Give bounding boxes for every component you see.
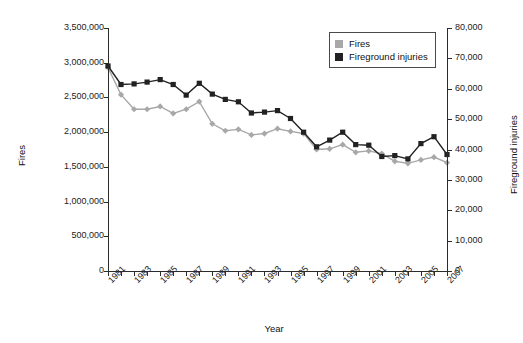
- data-point-marker: [196, 98, 202, 104]
- data-point-marker: [392, 158, 398, 164]
- data-point-marker: [353, 142, 358, 147]
- data-point-marker: [274, 126, 280, 132]
- data-point-marker: [418, 141, 423, 146]
- data-point-marker: [210, 92, 215, 97]
- data-point-marker: [235, 126, 241, 132]
- chart-figure: Fires Fireground injuries Year 3,500,000…: [0, 0, 523, 343]
- data-point-marker: [379, 154, 384, 159]
- y-axis-left-spine: [108, 28, 109, 272]
- data-point-marker: [287, 128, 293, 134]
- series-lines: [0, 0, 523, 343]
- series-fireground-injuries: [105, 63, 449, 161]
- data-point-marker: [209, 121, 215, 127]
- data-point-marker: [340, 130, 345, 135]
- data-point-marker: [248, 132, 254, 138]
- data-point-marker: [222, 128, 228, 134]
- chart-legend: Fires Fireground injuries: [329, 32, 436, 68]
- data-point-marker: [405, 156, 410, 161]
- legend-label-fireground-injuries: Fireground injuries: [349, 51, 428, 62]
- legend-swatch-fires: [335, 40, 343, 48]
- data-point-marker: [327, 138, 332, 143]
- data-point-marker: [301, 130, 306, 135]
- data-point-marker: [144, 106, 150, 112]
- legend-item-fireground-injuries: Fireground injuries: [335, 50, 428, 63]
- data-point-marker: [275, 108, 280, 113]
- data-point-marker: [197, 81, 202, 86]
- data-point-marker: [431, 134, 436, 139]
- data-point-marker: [366, 143, 371, 148]
- data-point-marker: [249, 110, 254, 115]
- data-point-marker: [353, 149, 359, 155]
- data-point-marker: [366, 148, 372, 154]
- data-point-marker: [157, 103, 163, 109]
- data-point-marker: [158, 77, 163, 82]
- data-point-marker: [431, 154, 437, 160]
- data-point-marker: [262, 110, 267, 115]
- data-point-marker: [171, 82, 176, 87]
- data-point-marker: [314, 144, 319, 149]
- legend-item-fires: Fires: [335, 37, 428, 50]
- legend-label-fires: Fires: [349, 38, 370, 49]
- x-axis-spine: [108, 271, 448, 272]
- data-point-marker: [418, 157, 424, 163]
- plot-area: [0, 0, 523, 343]
- data-point-marker: [340, 142, 346, 148]
- data-point-marker: [132, 81, 137, 86]
- data-point-marker: [184, 93, 189, 98]
- data-point-marker: [170, 110, 176, 116]
- y-axis-right-spine: [447, 28, 448, 272]
- data-point-marker: [118, 82, 123, 87]
- legend-swatch-fireground-injuries: [335, 53, 343, 61]
- data-point-marker: [145, 80, 150, 85]
- data-point-marker: [288, 116, 293, 121]
- data-point-marker: [261, 130, 267, 136]
- data-point-marker: [392, 153, 397, 158]
- data-point-marker: [236, 99, 241, 104]
- data-point-marker: [223, 97, 228, 102]
- data-point-marker: [327, 146, 333, 152]
- data-point-marker: [183, 106, 189, 112]
